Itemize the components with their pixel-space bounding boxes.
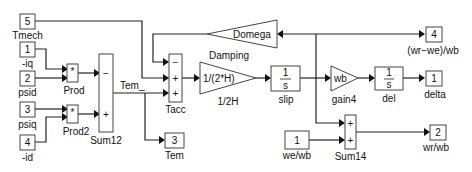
gain-block-1-2h[interactable]: 1/(2*H) 1/2H <box>200 62 256 107</box>
product-block-prod[interactable]: * Prod <box>63 64 84 96</box>
outport-label: wr/wb <box>422 142 450 153</box>
gain-value: wb <box>333 73 347 84</box>
gain-value: 1/(2*H) <box>203 73 235 84</box>
inport-number: 1 <box>25 44 31 55</box>
outport-label: delta <box>424 89 446 100</box>
outport-number: 4 <box>431 29 437 40</box>
outport-label: (wr−we)/wb <box>407 45 459 56</box>
integrator-denominator: s <box>283 80 288 91</box>
outport-number: 2 <box>435 127 441 138</box>
signal-label-tem: Tem_ <box>120 80 145 91</box>
inport-iq[interactable]: 1 -iq <box>20 42 35 69</box>
outport-number: 3 <box>172 135 178 146</box>
simulink-diagram: 5 Tmech 1 -iq 2 psid 3 psiq 4 -id 1 we/w… <box>0 0 472 172</box>
integrator-numerator: 1 <box>386 67 392 78</box>
sum-sign-plus: + <box>173 73 179 84</box>
outport-number: 1 <box>431 73 437 84</box>
sum-block-sum12[interactable]: − + Sum12 <box>90 54 122 146</box>
inport-tmech[interactable]: 5 Tmech <box>12 14 43 41</box>
integrator-block-slip[interactable]: 1 s slip <box>271 66 300 105</box>
sum-sign-plus: + <box>173 88 179 99</box>
inport-label: we/wb <box>282 150 312 161</box>
wire-tem-out <box>145 93 161 140</box>
outport-wr-wb[interactable]: 2 wr/wb <box>422 125 450 153</box>
inport-number: 3 <box>25 104 31 115</box>
block-label: Prod2 <box>63 126 90 137</box>
inport-number: 1 <box>294 135 300 146</box>
sum-sign-minus: − <box>173 57 179 68</box>
outport-label: Tem <box>165 150 184 161</box>
outport-tem[interactable]: 3 Tem <box>165 133 184 161</box>
inport-number: 2 <box>25 73 31 84</box>
block-label: 1/2H <box>217 96 238 107</box>
sum-sign-plus: + <box>348 118 354 129</box>
sum-sign-plus: + <box>348 135 354 146</box>
block-label: Sum14 <box>335 151 367 162</box>
wire-iq-prod <box>35 49 62 69</box>
product-symbol: * <box>71 107 75 118</box>
sum-sign-minus: − <box>103 68 109 79</box>
outport-wr-we-wb[interactable]: 4 (wr−we)/wb <box>407 27 459 56</box>
inport-label: -iq <box>22 58 33 69</box>
inport-label: psiq <box>18 119 36 130</box>
inport-label: Tmech <box>12 30 43 41</box>
block-label: Sum12 <box>90 135 122 146</box>
block-label: Tacc <box>165 104 186 115</box>
gain-block-damping[interactable]: Domega Damping <box>207 20 277 61</box>
sum-sign-plus: + <box>103 109 109 120</box>
gain-value: Domega <box>233 29 271 40</box>
product-block-prod2[interactable]: * Prod2 <box>63 105 90 137</box>
block-label: gain4 <box>332 94 357 105</box>
inport-psid[interactable]: 2 psid <box>18 71 36 98</box>
inport-number: 4 <box>25 137 31 148</box>
outport-delta[interactable]: 1 delta <box>424 71 446 100</box>
integrator-numerator: 1 <box>283 67 289 78</box>
inport-id[interactable]: 4 -id <box>20 135 35 163</box>
inport-we-wb[interactable]: 1 we/wb <box>282 131 312 161</box>
product-symbol: * <box>71 66 75 77</box>
block-label: slip <box>278 94 293 105</box>
inport-number: 5 <box>25 16 31 27</box>
inport-label: psid <box>18 87 36 98</box>
inport-label: -id <box>22 152 33 163</box>
block-label: del <box>382 93 395 104</box>
inport-psiq[interactable]: 3 psiq <box>18 102 36 130</box>
integrator-block-del[interactable]: 1 s del <box>375 67 403 104</box>
integrator-denominator: s <box>387 79 392 90</box>
block-label: Damping <box>209 50 249 61</box>
sum-block-tacc[interactable]: − + + Tacc <box>165 54 186 115</box>
wire-id-prod2 <box>35 117 62 142</box>
block-label: Prod <box>63 85 84 96</box>
gain-block-gain4[interactable]: wb gain4 <box>331 66 358 105</box>
